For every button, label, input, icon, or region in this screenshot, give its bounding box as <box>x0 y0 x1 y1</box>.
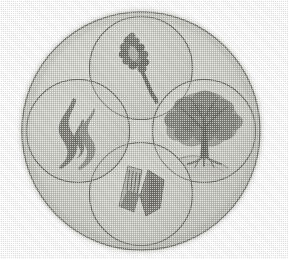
emblem-root <box>0 0 288 259</box>
emblem-illustration <box>0 0 288 259</box>
